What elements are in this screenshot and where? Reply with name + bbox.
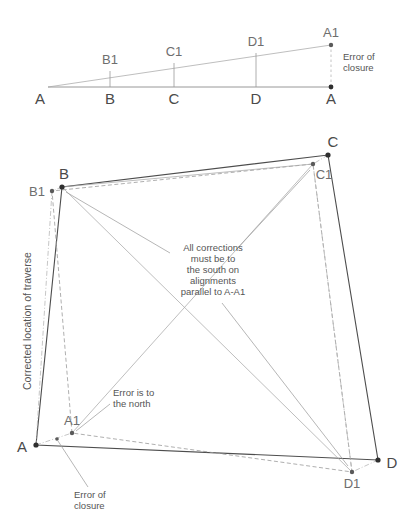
top-node-a1	[329, 43, 333, 47]
vertex-d1	[350, 470, 354, 474]
top-diagram-group: A B C D A B1 C1 D1 A1 Error of closure	[35, 25, 375, 107]
top-label-a1: A1	[323, 25, 339, 40]
error-north-line-2: the north	[113, 398, 151, 409]
label-a: A	[17, 438, 27, 455]
construction-c1-a1	[72, 164, 313, 433]
top-node-a-right	[329, 85, 334, 90]
vertex-c1	[311, 162, 315, 166]
corrections-note-line-2: must be to	[191, 253, 235, 264]
vertex-a	[33, 442, 38, 447]
leader-error-north	[76, 404, 110, 431]
top-label-a-left: A	[35, 90, 45, 107]
top-error-closure-label-line1: Error of	[343, 51, 375, 62]
correction-vector-a	[36, 433, 72, 445]
leader-error-closure	[58, 441, 88, 487]
label-b: B	[59, 165, 69, 182]
leader-to-c1	[236, 170, 310, 250]
vertex-b1	[50, 189, 54, 193]
figure-canvas: A B C D A B1 C1 D1 A1 Error of closure	[0, 0, 420, 532]
top-label-c: C	[169, 90, 180, 107]
label-b1: B1	[29, 184, 45, 199]
top-label-a-right: A	[326, 90, 336, 107]
label-d: D	[387, 454, 398, 471]
corrections-note-line-4: alignments	[190, 275, 236, 286]
construction-b-d1	[62, 187, 352, 472]
vertex-d	[375, 457, 380, 462]
correction-vector-d	[352, 460, 378, 472]
label-d1: D1	[344, 476, 361, 491]
corrections-note-line-1: All corrections	[183, 242, 243, 253]
top-error-closure-label-line2: closure	[343, 62, 374, 73]
corrected-location-axis-label: Corrected location of traverse	[21, 252, 33, 390]
measured-traverse-polygon	[36, 155, 378, 460]
error-closure-line-1: Error of	[74, 489, 106, 500]
leader-to-b	[66, 192, 170, 253]
main-diagram-group: A B C D A1 B1 C1 D1 Corrected location o…	[17, 133, 398, 511]
guide-b1-a	[36, 191, 52, 445]
label-a1: A1	[64, 413, 80, 428]
top-label-c1: C1	[166, 44, 183, 59]
construction-b-c1	[62, 164, 313, 187]
closure-node	[55, 437, 59, 441]
vertex-c	[325, 152, 330, 157]
corrections-note-line-3: the south on	[187, 264, 239, 275]
traverse-adjustment-figure: A B C D A B1 C1 D1 A1 Error of closure	[0, 0, 420, 532]
top-label-d: D	[251, 90, 262, 107]
vertex-b	[59, 184, 64, 189]
error-north-line-1: Error is to	[113, 387, 154, 398]
top-label-d1: D1	[248, 34, 265, 49]
label-c: C	[328, 133, 339, 150]
top-label-b: B	[105, 90, 115, 107]
error-closure-line-2: closure	[74, 500, 105, 511]
label-c1: C1	[316, 167, 333, 182]
top-label-b1: B1	[102, 52, 118, 67]
vertex-a1	[70, 431, 74, 435]
corrections-note-line-5: parallel to A-A1	[181, 286, 245, 297]
leader-to-d1	[222, 303, 348, 466]
top-correction-line	[48, 45, 331, 87]
